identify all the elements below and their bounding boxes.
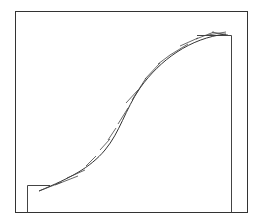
tangent-segment: [170, 44, 188, 55]
sigmoid-curve: [39, 34, 226, 191]
tangent-segment: [158, 55, 170, 64]
right-step-line: [197, 36, 232, 213]
tangent-segment: [145, 63, 160, 79]
sigmoid-diagram: [0, 0, 259, 223]
tangent-segment: [55, 176, 78, 185]
tangent-segments: [39, 32, 228, 191]
left-step-line: [28, 186, 51, 213]
tangent-segment: [132, 78, 146, 100]
outer-frame: [16, 12, 248, 213]
tangent-segment: [100, 139, 110, 150]
tangent-segment: [118, 108, 128, 124]
tangent-segment: [108, 128, 116, 140]
